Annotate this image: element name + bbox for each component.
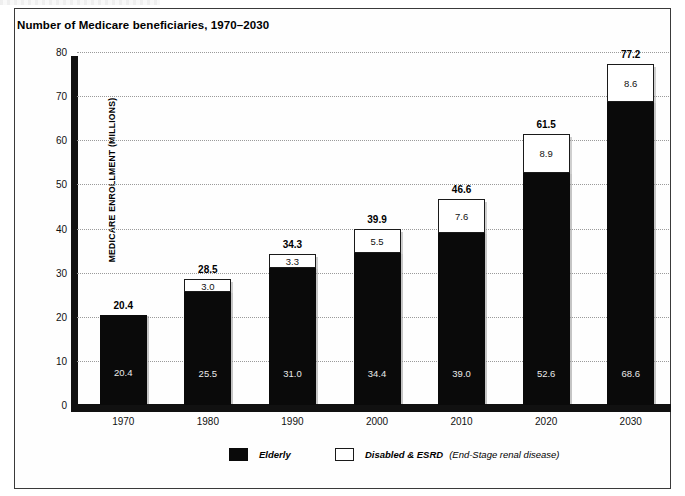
bar-total-label: 39.9 bbox=[348, 214, 407, 225]
bar-value-label-elderly: 31.0 bbox=[269, 368, 316, 379]
y-axis-tick-label: 50 bbox=[33, 179, 67, 190]
legend-item-disabled-esrd: Disabled & ESRD (End-Stage renal disease… bbox=[335, 448, 560, 461]
bar-value-label-disabled-esrd: 3.3 bbox=[270, 255, 315, 266]
bar-segment-elderly[interactable]: 25.5 bbox=[184, 292, 231, 405]
bar-value-label-elderly: 39.0 bbox=[438, 368, 485, 379]
bar-value-label-disabled-esrd: 5.5 bbox=[355, 236, 400, 247]
bar-group[interactable]: 3.331.034.3 bbox=[269, 52, 316, 405]
bar-total-label: 46.6 bbox=[432, 184, 491, 195]
bar-group[interactable]: 5.534.439.9 bbox=[354, 52, 401, 405]
bar-segment-elderly[interactable]: 20.4 bbox=[100, 315, 147, 405]
y-axis-tick-label: 10 bbox=[33, 355, 67, 366]
bar-segment-disabled-esrd[interactable]: 5.5 bbox=[354, 229, 401, 253]
bar-total-label: 77.2 bbox=[601, 49, 660, 60]
bar-segment-disabled-esrd[interactable]: 8.6 bbox=[607, 64, 654, 102]
bar-segment-disabled-esrd[interactable]: 3.0 bbox=[184, 279, 231, 292]
bar-total-label: 34.3 bbox=[263, 239, 322, 250]
bar-stack: 20.4 bbox=[100, 315, 147, 405]
legend-swatch-elderly-icon bbox=[229, 448, 248, 461]
x-axis-tick-label: 1970 bbox=[112, 416, 134, 427]
bar-value-label-elderly: 68.6 bbox=[607, 368, 654, 379]
bar-group[interactable]: 8.668.677.2 bbox=[607, 52, 654, 405]
y-axis-tick-label: 0 bbox=[33, 400, 67, 411]
scan-artifact bbox=[0, 0, 160, 5]
bar-segment-elderly[interactable]: 39.0 bbox=[438, 233, 485, 405]
legend-item-elderly: Elderly bbox=[229, 448, 291, 461]
y-axis-tick-label: 40 bbox=[33, 223, 67, 234]
x-axis-tick-labels: 1970198019902000201020202030 bbox=[77, 416, 669, 434]
bar-stack: 8.952.6 bbox=[523, 134, 570, 405]
bar-value-label-elderly: 34.4 bbox=[354, 368, 401, 379]
bar-stack: 8.668.6 bbox=[607, 64, 654, 405]
bar-group[interactable]: 20.420.4 bbox=[100, 52, 147, 405]
bar-value-label-disabled-esrd: 8.6 bbox=[608, 78, 653, 89]
x-axis-tick-label: 2010 bbox=[450, 416, 472, 427]
bar-value-label-elderly: 20.4 bbox=[101, 367, 146, 378]
bar-group[interactable]: 3.025.528.5 bbox=[184, 52, 231, 405]
bar-segment-disabled-esrd[interactable]: 7.6 bbox=[438, 199, 485, 233]
bar-total-label: 61.5 bbox=[517, 119, 576, 130]
y-axis-tick-label: 30 bbox=[33, 267, 67, 278]
bar-total-label: 20.4 bbox=[94, 300, 153, 311]
page-title: Number of Medicare beneficiaries, 1970–2… bbox=[17, 19, 269, 31]
x-axis-line bbox=[71, 404, 671, 412]
bar-segment-disabled-esrd[interactable]: 8.9 bbox=[523, 134, 570, 173]
bar-stack: 5.534.4 bbox=[354, 229, 401, 405]
bar-value-label-disabled-esrd: 7.6 bbox=[439, 211, 484, 222]
legend-sublabel-disabled-esrd: (End-Stage renal disease) bbox=[449, 449, 559, 460]
bar-value-label-elderly: 25.5 bbox=[184, 368, 231, 379]
bar-value-label-elderly: 52.6 bbox=[523, 368, 570, 379]
plot-area: 20.420.43.025.528.53.331.034.35.534.439.… bbox=[77, 52, 669, 405]
bar-stack: 7.639.0 bbox=[438, 199, 485, 405]
x-axis-tick-label: 2000 bbox=[366, 416, 388, 427]
x-axis-tick-label: 2030 bbox=[620, 416, 642, 427]
bar-value-label-disabled-esrd: 8.9 bbox=[524, 148, 569, 159]
bar-segment-elderly[interactable]: 68.6 bbox=[607, 102, 654, 405]
x-axis-tick-label: 1980 bbox=[197, 416, 219, 427]
bar-group[interactable]: 8.952.661.5 bbox=[523, 52, 570, 405]
legend-label-elderly: Elderly bbox=[259, 449, 291, 460]
chart-legend: Elderly Disabled & ESRD (End-Stage renal… bbox=[0, 444, 685, 470]
bar-value-label-disabled-esrd: 3.0 bbox=[185, 280, 230, 291]
legend-swatch-disabled-icon bbox=[335, 448, 354, 461]
bar-group[interactable]: 7.639.046.6 bbox=[438, 52, 485, 405]
bar-total-label: 28.5 bbox=[178, 264, 237, 275]
y-axis-tick-label: 60 bbox=[33, 135, 67, 146]
bar-segment-disabled-esrd[interactable]: 3.3 bbox=[269, 254, 316, 269]
bar-segment-elderly[interactable]: 34.4 bbox=[354, 253, 401, 405]
y-axis-tick-labels: 01020304050607080 bbox=[22, 52, 67, 405]
x-axis-tick-label: 1990 bbox=[281, 416, 303, 427]
y-axis-tick-label: 80 bbox=[33, 47, 67, 58]
bar-segment-elderly[interactable]: 52.6 bbox=[523, 173, 570, 405]
x-axis-tick-label: 2020 bbox=[535, 416, 557, 427]
legend-label-disabled-esrd: Disabled & ESRD bbox=[365, 449, 443, 460]
y-axis-tick-label: 20 bbox=[33, 311, 67, 322]
bar-segment-elderly[interactable]: 31.0 bbox=[269, 268, 316, 405]
bar-stack: 3.331.0 bbox=[269, 254, 316, 405]
bar-stack: 3.025.5 bbox=[184, 279, 231, 405]
y-axis-tick-label: 70 bbox=[33, 91, 67, 102]
